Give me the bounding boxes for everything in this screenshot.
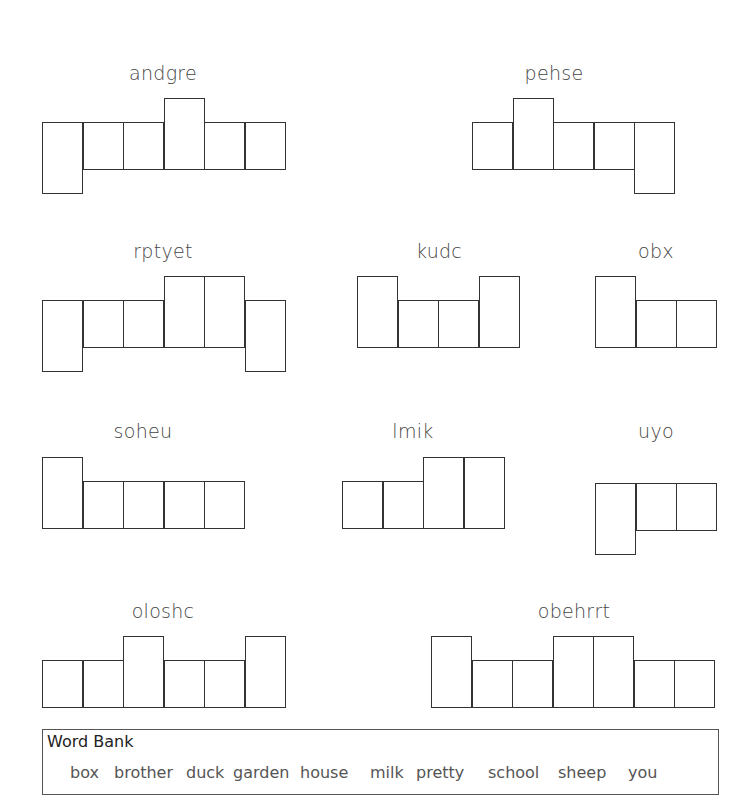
tall-letter-box[interactable] [464, 457, 505, 529]
tall-letter-box[interactable] [595, 276, 636, 348]
letter-box[interactable] [245, 122, 286, 170]
letter-box[interactable] [42, 660, 83, 708]
letter-box[interactable] [674, 660, 715, 708]
word-bank-word: milk [370, 763, 404, 782]
letter-box[interactable] [164, 660, 205, 708]
letter-box[interactable] [123, 300, 164, 348]
letter-box[interactable] [123, 481, 164, 529]
letter-box[interactable] [83, 122, 124, 170]
letter-box[interactable] [636, 300, 677, 348]
tall-letter-box[interactable] [164, 98, 205, 170]
tall-letter-box[interactable] [123, 636, 164, 708]
tall-letter-box[interactable] [357, 276, 398, 348]
letter-box[interactable] [594, 122, 635, 170]
letter-box[interactable] [83, 660, 124, 708]
scrambled-word: oloshc [132, 600, 195, 622]
tall-letter-box[interactable] [164, 276, 205, 348]
tall-letter-box[interactable] [553, 636, 594, 708]
word-bank-title: Word Bank [47, 732, 133, 751]
word-bank-word: school [488, 763, 539, 782]
scrambled-word: andgre [129, 62, 197, 84]
word-bank-word: duck [186, 763, 224, 782]
letter-box[interactable] [83, 481, 124, 529]
word-bank-word: sheep [558, 763, 606, 782]
letter-box[interactable] [83, 300, 124, 348]
letter-box[interactable] [676, 483, 717, 531]
letter-box[interactable] [398, 300, 439, 348]
tall-letter-box[interactable] [423, 457, 464, 529]
letter-box[interactable] [512, 660, 553, 708]
letter-box[interactable] [204, 122, 245, 170]
letter-box[interactable] [634, 660, 675, 708]
tall-letter-box[interactable] [42, 457, 83, 529]
descender-letter-box[interactable] [42, 122, 83, 194]
tall-letter-box[interactable] [204, 276, 245, 348]
word-bank-word: you [628, 763, 657, 782]
scrambled-word: rptyet [133, 240, 193, 262]
descender-letter-box[interactable] [634, 122, 675, 194]
letter-box[interactable] [164, 481, 205, 529]
letter-box[interactable] [676, 300, 717, 348]
letter-box[interactable] [204, 481, 245, 529]
scrambled-word: obehrrt [538, 600, 611, 622]
letter-box[interactable] [204, 660, 245, 708]
scrambled-word: kudc [416, 240, 462, 262]
word-bank-word: pretty [416, 763, 464, 782]
letter-box[interactable] [342, 481, 383, 529]
letter-box[interactable] [383, 481, 424, 529]
scrambled-word: pehse [525, 62, 584, 84]
word-bank-word: box [70, 763, 99, 782]
word-bank-word: brother [114, 763, 173, 782]
tall-letter-box[interactable] [513, 98, 554, 170]
word-bank-word: house [300, 763, 348, 782]
letter-box[interactable] [472, 122, 513, 170]
tall-letter-box[interactable] [245, 636, 286, 708]
descender-letter-box[interactable] [42, 300, 83, 372]
word-bank-word: garden [233, 763, 289, 782]
scrambled-word: soheu [114, 420, 173, 442]
scrambled-word: uyo [638, 420, 674, 442]
descender-letter-box[interactable] [245, 300, 286, 372]
tall-letter-box[interactable] [593, 636, 634, 708]
letter-box[interactable] [636, 483, 677, 531]
letter-box[interactable] [472, 660, 513, 708]
descender-letter-box[interactable] [595, 483, 636, 555]
letter-box[interactable] [438, 300, 479, 348]
tall-letter-box[interactable] [479, 276, 520, 348]
scrambled-word: obx [638, 240, 674, 262]
scrambled-word: lmik [392, 420, 433, 442]
tall-letter-box[interactable] [431, 636, 472, 708]
word-bank: Word Bank boxbrotherduckgardenhousemilkp… [42, 729, 719, 795]
letter-box[interactable] [553, 122, 594, 170]
letter-box[interactable] [123, 122, 164, 170]
